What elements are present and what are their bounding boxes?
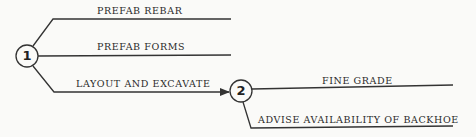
node-1-label: 1 xyxy=(16,45,38,67)
activity-label-layout-excavate: LAYOUT AND EXCAVATE xyxy=(76,78,210,89)
activity-label-fine-grade: FINE GRADE xyxy=(322,75,393,86)
network-diagram: 1 2 PREFAB REBAR PREFAB FORMS LAYOUT AND… xyxy=(0,0,476,137)
activity-label-prefab-rebar: PREFAB REBAR xyxy=(97,5,182,16)
activity-label-advise-backhoe: ADVISE AVAILABILITY OF BACKHOE xyxy=(258,114,459,125)
activity-prefab-forms-line xyxy=(38,55,231,56)
node-2-label: 2 xyxy=(230,80,252,102)
activity-label-prefab-forms: PREFAB FORMS xyxy=(97,41,185,52)
